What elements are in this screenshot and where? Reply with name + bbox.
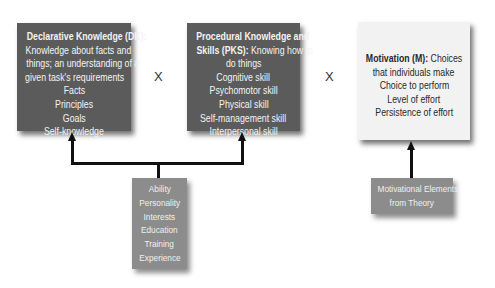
motivational-elements-line: Motivational Elements bbox=[378, 182, 459, 196]
connector-motivation bbox=[410, 148, 413, 178]
pks-title-abbrev: Skills (PKS): bbox=[196, 45, 248, 56]
declarative-knowledge-box: Declarative Knowledge (DK): Knowledge ab… bbox=[17, 23, 131, 131]
dk-item-principles: Principles bbox=[55, 98, 93, 112]
pks-item-cognitive: Cognitive skill bbox=[217, 71, 271, 85]
motivational-elements-line: from Theory bbox=[390, 196, 434, 210]
motivation-box: Motivation (M): Choices that individuals… bbox=[358, 22, 470, 140]
pks-item-psychomotor: Psychomotor skill bbox=[209, 84, 277, 98]
motivation-line: that individuals make bbox=[373, 66, 455, 80]
motivation-item-level: Level of effort bbox=[388, 93, 441, 107]
pks-line: do things bbox=[226, 57, 262, 71]
determinant-personality: Personality bbox=[139, 196, 180, 210]
motivation-title: Motivation (M): bbox=[366, 53, 428, 64]
arrow-up-icon bbox=[68, 132, 76, 141]
determinant-training: Training bbox=[145, 237, 175, 251]
procedural-knowledge-box: Procedural Knowledge and Skills (PKS): K… bbox=[187, 23, 300, 131]
pks-desc-start: Knowing how to bbox=[249, 45, 313, 56]
dk-line: given task's requirements bbox=[25, 71, 124, 85]
dk-line: Knowledge about facts and bbox=[26, 44, 132, 58]
motivation-desc-start: Choices bbox=[428, 53, 462, 64]
arrow-up-icon bbox=[407, 141, 415, 150]
multiply-operator-2: X bbox=[325, 69, 334, 84]
arrow-up-icon bbox=[238, 132, 246, 141]
dk-title: Declarative Knowledge (DK): bbox=[27, 31, 147, 42]
determinant-ability: Ability bbox=[148, 182, 170, 196]
connector-stem bbox=[157, 162, 160, 178]
determinant-education: Education bbox=[141, 223, 178, 237]
motivational-elements-box: Motivational Elements from Theory bbox=[371, 178, 453, 214]
motivation-item-choice: Choice to perform bbox=[379, 79, 449, 93]
pks-item-self-management: Self-management skill bbox=[200, 112, 286, 126]
dk-line: things; an understanding of a bbox=[26, 57, 139, 71]
determinants-box: Ability Personality Interests Education … bbox=[132, 178, 187, 269]
pks-item-physical: Physical skill bbox=[219, 98, 269, 112]
motivation-item-persistence: Persistence of effort bbox=[375, 106, 453, 120]
pks-title-line1: Procedural Knowledge and bbox=[196, 31, 309, 42]
dk-item-facts: Facts bbox=[63, 84, 84, 98]
dk-item-goals: Goals bbox=[63, 112, 86, 126]
determinant-experience: Experience bbox=[139, 251, 180, 265]
multiply-operator-1: X bbox=[154, 69, 163, 84]
determinant-interests: Interests bbox=[144, 210, 176, 224]
